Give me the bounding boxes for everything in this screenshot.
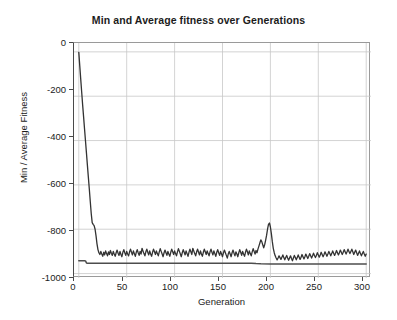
chart-figure: Min and Average fitness over Generations… [0, 0, 397, 320]
x-tick-label-300: 300 [342, 281, 382, 292]
x-tick-label-50: 50 [102, 281, 142, 292]
chart-title: Min and Average fitness over Generations [0, 14, 397, 26]
grid-lines [74, 43, 371, 278]
y-tick-label-400: -400 [24, 131, 66, 142]
plot-area [73, 42, 370, 277]
plot-svg [74, 43, 371, 278]
y-tick-label-800: -800 [24, 225, 66, 236]
x-axis-label: Generation [73, 296, 370, 307]
y-tick-label-0: 0 [24, 37, 66, 48]
y-tick-label-600: -600 [24, 178, 66, 189]
x-tick-label-0: 0 [53, 281, 93, 292]
x-tick-label-100: 100 [150, 281, 190, 292]
x-tick-label-200: 200 [246, 281, 286, 292]
y-tick-label-200: -200 [24, 84, 66, 95]
x-tick-label-250: 250 [294, 281, 334, 292]
x-tick-label-150: 150 [198, 281, 238, 292]
